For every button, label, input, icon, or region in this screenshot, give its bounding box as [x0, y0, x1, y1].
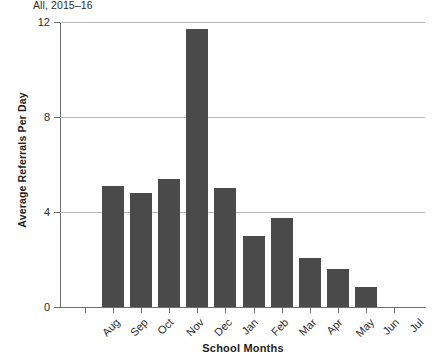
x-axis-tick-label: Jan	[240, 316, 261, 337]
x-axis-tick-label: Dec	[212, 316, 234, 338]
x-axis-tick-label: Aug	[100, 316, 122, 338]
bar	[158, 179, 180, 307]
x-axis-tick	[141, 308, 142, 313]
x-axis-tick	[394, 308, 395, 313]
x-axis-tick	[197, 308, 198, 313]
bar	[186, 29, 208, 307]
x-axis-tick-label: Oct	[155, 316, 176, 337]
bar-chart-figure: All, 2015–16 04812 Average Referrals Per…	[0, 0, 435, 362]
plot-area	[60, 22, 425, 307]
y-axis-title: Average Referrals Per Day	[16, 45, 28, 275]
bar	[271, 218, 293, 307]
y-axis-tick-label: 12	[4, 17, 50, 28]
bar	[214, 188, 236, 307]
chart-subtitle: All, 2015–16	[33, 0, 93, 11]
x-axis-tick-label: Jun	[380, 316, 401, 337]
x-axis-tick-label: Jul	[407, 316, 425, 334]
x-axis-tick	[310, 308, 311, 313]
x-axis-tick	[85, 308, 86, 313]
x-axis-tick	[282, 308, 283, 313]
x-axis-title: School Months	[60, 342, 426, 354]
x-axis-line	[60, 307, 426, 308]
x-axis-tick-label: Nov	[184, 316, 206, 338]
x-axis-tick	[225, 308, 226, 313]
x-axis-tick-label: May	[353, 316, 376, 339]
bar	[355, 287, 377, 307]
bar	[243, 236, 265, 307]
y-axis-tick	[54, 307, 60, 308]
bar	[102, 186, 124, 307]
x-axis-tick	[338, 308, 339, 313]
bar	[130, 193, 152, 307]
bar	[299, 258, 321, 307]
x-axis-tick-label: Feb	[268, 316, 290, 338]
x-axis-tick	[169, 308, 170, 313]
x-axis-tick-label: Mar	[296, 316, 318, 338]
x-axis-tick	[254, 308, 255, 313]
x-axis-tick-label: Sep	[128, 316, 150, 338]
y-axis-tick-label: 0	[4, 302, 50, 313]
bar	[327, 269, 349, 307]
x-axis-tick	[366, 308, 367, 313]
x-axis-tick	[113, 308, 114, 313]
x-axis-tick-label: Apr	[324, 316, 345, 337]
